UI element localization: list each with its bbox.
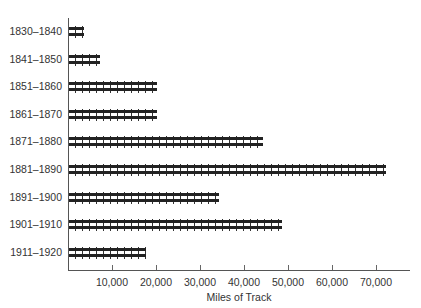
track-rail bbox=[69, 220, 282, 223]
track-rail bbox=[69, 61, 100, 64]
y-axis-label: 1891–1900 bbox=[0, 191, 62, 203]
x-tick bbox=[376, 265, 377, 270]
track-rail bbox=[69, 55, 100, 58]
x-tick-label: 60,000 bbox=[316, 276, 348, 288]
track-rail bbox=[69, 165, 386, 168]
x-tick-label: 30,000 bbox=[184, 276, 216, 288]
bar-1830–1840 bbox=[69, 27, 84, 37]
track-rail bbox=[69, 82, 157, 85]
x-axis-line bbox=[68, 270, 410, 271]
x-axis-title: Miles of Track bbox=[207, 291, 272, 303]
x-tick bbox=[200, 265, 201, 270]
track-rail bbox=[69, 248, 146, 251]
track-rail bbox=[69, 171, 386, 174]
x-tick bbox=[112, 265, 113, 270]
y-axis-label: 1851–1860 bbox=[0, 80, 62, 92]
x-tick-label: 20,000 bbox=[140, 276, 172, 288]
bar-1861–1870 bbox=[69, 110, 157, 120]
track-rail bbox=[69, 27, 84, 30]
y-axis-label: 1861–1870 bbox=[0, 108, 62, 120]
y-axis-label: 1830–1840 bbox=[0, 25, 62, 37]
railroad-track-bar-chart: 1830–18401841–18501851–18601861–18701871… bbox=[0, 0, 421, 308]
bar-1851–1860 bbox=[69, 82, 157, 92]
track-rail bbox=[69, 110, 157, 113]
y-axis-label: 1881–1890 bbox=[0, 163, 62, 175]
track-rail bbox=[69, 137, 263, 140]
x-tick bbox=[244, 265, 245, 270]
track-rail bbox=[69, 116, 157, 119]
track-rail bbox=[69, 33, 84, 36]
track-rail bbox=[69, 199, 219, 202]
bar-1841–1850 bbox=[69, 55, 100, 65]
x-tick bbox=[288, 265, 289, 270]
track-rail bbox=[69, 254, 146, 257]
x-tick bbox=[332, 265, 333, 270]
bar-1881–1890 bbox=[69, 165, 386, 175]
bar-1891–1900 bbox=[69, 193, 219, 203]
x-tick bbox=[156, 265, 157, 270]
x-tick-label: 70,000 bbox=[360, 276, 392, 288]
track-rail bbox=[69, 193, 219, 196]
y-axis-label: 1841–1850 bbox=[0, 53, 62, 65]
x-tick-label: 10,000 bbox=[96, 276, 128, 288]
y-axis-label: 1911–1920 bbox=[0, 246, 62, 258]
track-rail bbox=[69, 226, 282, 229]
track-rail bbox=[69, 143, 263, 146]
x-tick-label: 40,000 bbox=[228, 276, 260, 288]
bar-1911–1920 bbox=[69, 248, 146, 258]
track-rail bbox=[69, 88, 157, 91]
y-axis-label: 1871–1880 bbox=[0, 135, 62, 147]
bar-1871–1880 bbox=[69, 137, 263, 147]
y-axis-label: 1901–1910 bbox=[0, 218, 62, 230]
bar-1901–1910 bbox=[69, 220, 282, 230]
x-tick-label: 50,000 bbox=[272, 276, 304, 288]
